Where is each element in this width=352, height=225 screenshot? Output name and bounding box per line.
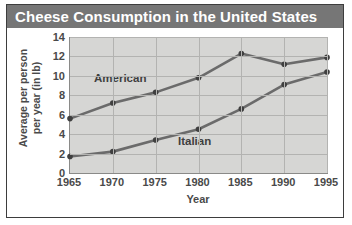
y-axis-tick: 14 [53,31,65,43]
y-axis-tick: 12 [53,50,65,62]
y-axis-label-line2: per year (in lb) [30,62,43,134]
x-axis-tick: 1965 [57,176,81,188]
x-axis-tick: 1990 [271,176,295,188]
x-axis-tick: 1985 [228,176,252,188]
gridline-vertical [199,37,200,173]
plot-area: American Italian [69,37,328,174]
x-axis-tick: 1995 [314,176,338,188]
series-label-italian: Italian [178,135,211,147]
y-axis-tick: 8 [59,89,65,101]
gridline-vertical [241,37,242,173]
chart-figure: Cheese Consumption in the United States … [6,4,344,218]
y-axis-tick: 4 [59,128,65,140]
gridline-vertical [327,37,328,173]
chart-title-bar: Cheese Consumption in the United States [7,5,343,28]
series-label-american: American [94,72,146,84]
data-point [67,116,73,122]
page-title: Cheese Consumption in the United States [7,8,317,25]
y-axis-tick-labels: 14121086420 [45,37,65,173]
y-axis-tick: 10 [53,70,65,82]
x-axis-tick: 1975 [142,176,166,188]
x-axis-tick: 1970 [100,176,124,188]
gridline-vertical [156,37,157,173]
x-axis-tick-labels: 1965197019751980198519901995 [69,176,327,192]
y-axis-label: Average per person per year (in lb) [13,28,47,168]
y-axis-tick: 6 [59,109,65,121]
x-axis-tick: 1980 [185,176,209,188]
y-axis-label-line1: Average per person [17,49,30,147]
x-axis-label: Year [69,193,327,205]
y-axis-tick: 2 [59,148,65,160]
gridline-vertical [113,37,114,173]
gridline-vertical [284,37,285,173]
plot-container: Average per person per year (in lb) 1412… [7,28,343,217]
